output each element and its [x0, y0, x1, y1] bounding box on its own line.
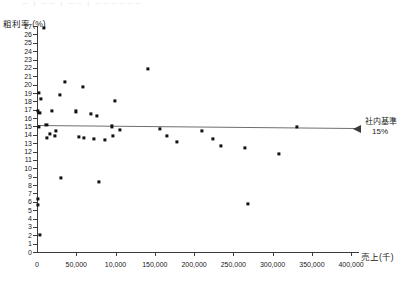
data-point	[175, 140, 178, 143]
y-tick-label: 15	[24, 123, 32, 130]
y-tick	[33, 252, 37, 253]
y-tick	[33, 26, 37, 27]
data-point	[39, 97, 42, 100]
data-point	[211, 137, 214, 140]
data-point	[48, 132, 51, 135]
y-tick-label: 27	[24, 23, 32, 30]
y-tick	[33, 143, 37, 144]
x-tick	[116, 252, 117, 256]
x-tick	[76, 252, 77, 256]
data-point	[83, 137, 86, 140]
scatter-chart: — | —— | —— | —————— 粗利率 (%) 売上(千) 01234…	[0, 0, 411, 297]
x-tick-label: 350,000	[299, 261, 324, 268]
x-tick	[351, 252, 352, 256]
y-tick-label: 4	[28, 215, 32, 222]
data-point	[54, 129, 57, 132]
y-tick-label: 18	[24, 98, 32, 105]
y-tick-label: 24	[24, 48, 32, 55]
data-point	[277, 153, 280, 156]
y-tick-label: 14	[24, 131, 32, 138]
y-tick-label: 8	[28, 182, 32, 189]
data-point	[295, 126, 298, 129]
y-tick-label: 16	[24, 115, 32, 122]
x-tick-label: 0	[35, 261, 39, 268]
x-tick	[273, 252, 274, 256]
y-tick-label: 13	[24, 140, 32, 147]
y-tick	[33, 34, 37, 35]
y-tick	[33, 135, 37, 136]
y-tick-label: 19	[24, 90, 32, 97]
y-tick-label: 9	[28, 173, 32, 180]
data-point	[146, 67, 149, 70]
data-point	[37, 91, 40, 94]
x-axis-title: 売上(千)	[361, 250, 394, 262]
reference-line-15-percent	[37, 125, 355, 129]
data-point	[112, 134, 115, 137]
reference-arrow-icon	[353, 125, 361, 133]
y-tick-label: 0	[28, 249, 32, 256]
y-tick	[33, 60, 37, 61]
data-point	[95, 114, 98, 117]
data-point	[37, 126, 40, 129]
data-point	[46, 137, 49, 140]
y-tick-label: 22	[24, 64, 32, 71]
y-tick	[33, 126, 37, 127]
y-tick	[33, 193, 37, 194]
y-axis-line	[37, 26, 38, 252]
x-tick	[194, 252, 195, 256]
y-tick	[33, 185, 37, 186]
data-point	[92, 137, 95, 140]
data-point	[113, 100, 116, 103]
data-point	[246, 203, 249, 206]
y-tick-label: 11	[25, 156, 32, 163]
reference-annotation: 社内基準 15%	[365, 117, 397, 137]
data-point	[77, 135, 80, 138]
y-tick	[33, 51, 37, 52]
data-point	[82, 86, 85, 89]
y-tick	[33, 235, 37, 236]
y-tick	[33, 177, 37, 178]
y-tick-label: 23	[24, 56, 32, 63]
data-point	[244, 147, 247, 150]
reference-label-line1: 社内基準	[365, 117, 397, 126]
x-tick	[312, 252, 313, 256]
y-tick	[33, 85, 37, 86]
data-point	[36, 198, 39, 201]
y-tick	[33, 244, 37, 245]
y-tick-label: 12	[24, 148, 32, 155]
y-tick-label: 17	[24, 106, 32, 113]
data-point	[74, 110, 77, 113]
y-tick-label: 6	[28, 198, 32, 205]
y-tick-label: 5	[28, 207, 32, 214]
data-point	[110, 125, 113, 128]
data-point	[50, 109, 53, 112]
y-tick	[33, 227, 37, 228]
data-point	[158, 127, 161, 130]
y-tick-label: 20	[24, 81, 32, 88]
y-tick-label: 7	[28, 190, 32, 197]
y-tick	[33, 68, 37, 69]
y-tick-label: 25	[24, 39, 32, 46]
data-point	[38, 112, 41, 115]
y-tick	[33, 168, 37, 169]
x-tick-label: 10,000	[105, 261, 126, 268]
y-tick	[33, 160, 37, 161]
data-point	[97, 180, 100, 183]
y-tick	[33, 152, 37, 153]
y-tick-label: 10	[24, 165, 32, 172]
data-point	[64, 81, 67, 84]
y-tick-label: 1	[28, 240, 32, 247]
data-point	[118, 128, 121, 131]
y-tick-label: 3	[28, 223, 32, 230]
data-point	[54, 134, 57, 137]
data-point	[58, 93, 61, 96]
y-tick	[33, 219, 37, 220]
data-point	[90, 112, 93, 115]
data-point	[219, 144, 222, 147]
x-tick	[233, 252, 234, 256]
y-tick	[33, 76, 37, 77]
top-cropped-text: — | —— | —— | ——————	[22, 0, 212, 7]
y-tick	[33, 101, 37, 102]
x-tick-label: 200,000	[181, 261, 206, 268]
data-point	[38, 234, 41, 237]
